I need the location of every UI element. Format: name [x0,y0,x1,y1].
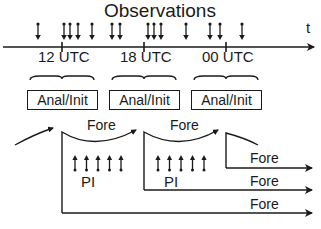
pi-arrow-icon [72,155,77,172]
observation-arrow-icon [89,22,95,40]
observation-arrow-icon [117,22,123,40]
window-braces [30,76,258,80]
time-axis-label: t [306,20,310,35]
pi-arrow-icon [178,155,183,172]
observation-arrow-icon [158,22,164,40]
forecast-label-1: Fore [87,118,116,132]
pi-arrow-icon [107,155,112,172]
pi-arrow-icon [167,155,172,172]
observation-arrow-icon [207,22,213,40]
pi-label-1: PI [81,174,95,189]
pi-arrow-icon [84,155,89,172]
diagram-graphics [0,0,321,229]
forecast-label-4: Fore [250,174,279,188]
utc-label-18: 18 UTC [120,49,172,64]
observation-arrow-icon [217,22,223,40]
diagram-title: Observations [104,1,216,20]
observation-arrow-icon [239,22,245,40]
forecast-label-5: Fore [250,197,279,211]
observation-arrows [35,22,245,40]
observation-arrow-icon [145,22,151,40]
analysis-init-box-2: Anal/Init [109,90,180,110]
forecast-label-3: Fore [250,151,279,165]
analysis-init-box-3: Anal/Init [191,90,262,110]
observation-arrow-icon [183,22,189,40]
observation-arrow-icon [109,22,115,40]
physical-initialization-arrows [72,155,206,172]
analysis-init-box-1: Anal/Init [27,90,98,110]
pi-arrow-icon [118,155,123,172]
observation-arrow-icon [61,22,67,40]
observation-arrow-icon [35,22,41,40]
observation-arrow-icon [67,22,73,40]
pi-arrow-icon [190,155,195,172]
pi-arrow-icon [201,155,206,172]
observation-arrow-icon [151,22,157,40]
pi-label-2: PI [164,174,178,189]
forecast-label-2: Fore [170,118,199,132]
pi-arrow-icon [95,155,100,172]
utc-label-12: 12 UTC [38,49,90,64]
observation-arrow-icon [75,22,81,40]
utc-label-00: 00 UTC [202,49,254,64]
pi-arrow-icon [155,155,160,172]
assimilation-cycle-diagram: Observations t 12 UTC 18 UTC 00 UTC Anal… [0,0,321,229]
